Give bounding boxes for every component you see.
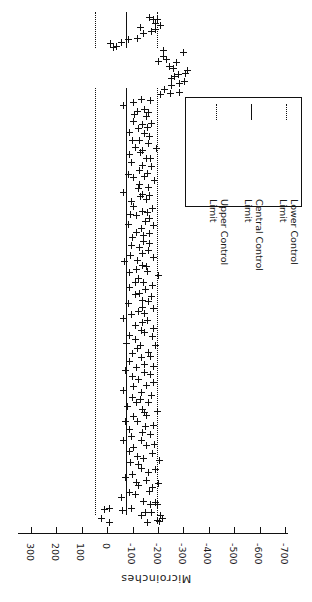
data-point: [148, 120, 155, 127]
data-point: [148, 293, 155, 300]
axis-tick: [56, 527, 57, 533]
data-point: [146, 230, 153, 237]
data-point: [144, 519, 151, 526]
data-point: [120, 387, 127, 394]
axis-tick-label: 200: [50, 543, 61, 561]
data-point: [149, 282, 156, 289]
data-point: [150, 254, 157, 261]
legend-label-line2: Limit: [243, 199, 254, 271]
data-point: [151, 177, 158, 184]
data-point: [146, 192, 153, 199]
axis-tick: [234, 527, 235, 533]
data-point: [155, 272, 162, 279]
data-point: [139, 208, 146, 215]
data-point: [140, 30, 147, 37]
legend-label-line1: Central Control: [254, 199, 265, 271]
data-point: [166, 63, 173, 70]
data-point: [146, 14, 153, 21]
data-point: [152, 499, 159, 506]
data-point: [145, 469, 152, 476]
legend-key-dotted: [216, 104, 217, 120]
data-point: [130, 413, 137, 420]
data-point: [138, 389, 145, 396]
legend-label: Lower ControlLimit: [278, 199, 300, 265]
axis-tick: [158, 527, 159, 533]
data-point: [125, 171, 132, 178]
value-axis-line: [18, 533, 288, 534]
axis-tick: [31, 527, 32, 533]
data-point: [130, 118, 137, 125]
data-point: [145, 247, 152, 254]
data-point: [127, 211, 134, 218]
data-point: [139, 162, 146, 169]
data-point: [98, 515, 105, 522]
data-point: [133, 364, 140, 371]
data-point: [126, 269, 133, 276]
axis-tick-label: 0: [101, 543, 112, 549]
data-point: [129, 137, 136, 144]
data-point: [153, 145, 160, 152]
data-point: [173, 59, 180, 66]
legend-label-line1: Upper Control: [219, 199, 230, 265]
data-point: [145, 140, 152, 147]
upper-control-limit-line: [95, 88, 96, 515]
data-point: [120, 315, 127, 322]
data-point: [127, 252, 134, 259]
axis-tick: [82, 527, 83, 533]
data-point: [156, 457, 163, 464]
data-point: [130, 99, 137, 106]
data-point: [129, 373, 136, 380]
axis-tick-label: -400: [202, 543, 213, 565]
data-point: [119, 507, 126, 514]
data-point: [120, 437, 127, 444]
data-point: [147, 371, 154, 378]
data-point: [139, 406, 146, 413]
data-point: [132, 144, 139, 151]
data-point: [140, 455, 147, 462]
data-point: [151, 441, 158, 448]
data-point: [125, 300, 132, 307]
data-point: [106, 519, 113, 526]
legend-label-line2: Limit: [278, 199, 289, 265]
axis-tick: [260, 527, 261, 533]
data-point: [129, 471, 136, 478]
data-point: [149, 450, 156, 457]
data-point: [139, 429, 146, 436]
legend-key-dotted: [286, 104, 287, 120]
data-point: [122, 474, 129, 481]
legend: Upper ControlLimitCentral ControlLimitLo…: [185, 97, 302, 207]
data-point: [155, 480, 162, 487]
data-point: [145, 399, 152, 406]
data-point: [141, 369, 148, 376]
data-point: [147, 97, 154, 104]
axis-tick: [133, 527, 134, 533]
axis-tick: [107, 527, 108, 533]
legend-label: Upper ControlLimit: [208, 199, 230, 265]
data-point: [120, 102, 127, 109]
axis-tick-label: 300: [25, 543, 36, 561]
data-point: [147, 431, 154, 438]
central-control-limit-line: [126, 12, 127, 48]
data-point: [141, 106, 148, 113]
data-point: [130, 444, 137, 451]
axis-tick-label: -600: [253, 543, 264, 565]
data-point: [150, 363, 157, 370]
data-point: [150, 222, 157, 229]
data-point: [134, 453, 141, 460]
data-point: [148, 392, 155, 399]
data-point: [125, 221, 132, 228]
data-point: [127, 459, 134, 466]
data-point: [122, 367, 129, 374]
legend-label-line1: Lower Control: [289, 199, 300, 265]
data-point: [130, 383, 137, 390]
data-point: [125, 36, 132, 43]
data-point: [160, 47, 167, 54]
data-point: [124, 403, 131, 410]
data-point: [149, 333, 156, 340]
control-chart: 3002001000-100-200-300-400-500-600-700 M…: [0, 0, 312, 602]
data-point: [133, 479, 140, 486]
data-point: [144, 170, 151, 177]
data-point: [160, 53, 167, 60]
data-point: [138, 437, 145, 444]
data-point: [142, 423, 149, 430]
